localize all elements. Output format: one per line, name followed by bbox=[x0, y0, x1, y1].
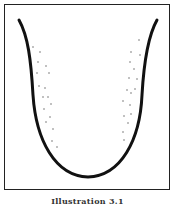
dot bbox=[139, 54, 140, 55]
dot bbox=[45, 121, 46, 122]
dot bbox=[32, 46, 33, 47]
dot bbox=[45, 65, 46, 66]
dot bbox=[123, 139, 124, 140]
dot bbox=[123, 115, 124, 116]
dot bbox=[130, 51, 131, 52]
u-curve-diagram bbox=[0, 0, 175, 205]
dot bbox=[129, 61, 130, 62]
dot bbox=[128, 77, 129, 78]
dot bbox=[50, 103, 51, 104]
dot bbox=[38, 85, 39, 86]
dot bbox=[127, 122, 128, 123]
dot bbox=[122, 100, 123, 101]
dot bbox=[126, 89, 127, 90]
dot bbox=[43, 108, 44, 109]
dot bbox=[51, 140, 52, 141]
dot bbox=[47, 96, 48, 97]
dot bbox=[42, 96, 43, 97]
dot bbox=[129, 104, 130, 105]
dot bbox=[130, 113, 131, 114]
dot bbox=[122, 131, 123, 132]
dot bbox=[52, 128, 53, 129]
figure-caption: Illustration 3.1 bbox=[0, 196, 175, 205]
dot bbox=[136, 78, 137, 79]
dot bbox=[130, 92, 131, 93]
dot-markers bbox=[32, 39, 140, 147]
dot bbox=[134, 88, 135, 89]
dot bbox=[44, 87, 45, 88]
dot bbox=[49, 116, 50, 117]
dot bbox=[37, 61, 38, 62]
dot bbox=[36, 72, 37, 73]
u-shaped-curve bbox=[19, 20, 157, 177]
dot bbox=[133, 68, 134, 69]
dot bbox=[48, 72, 49, 73]
dot bbox=[56, 146, 57, 147]
dot bbox=[39, 51, 40, 52]
dot bbox=[138, 39, 139, 40]
